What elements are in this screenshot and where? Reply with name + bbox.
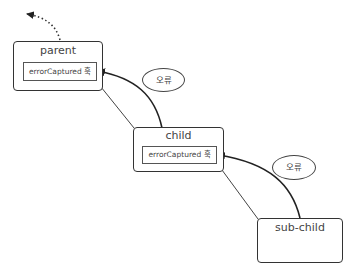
parent-error-captured-hook: errorCaptured 훅 (23, 62, 97, 81)
error-bubble-upper: 오류 (142, 68, 185, 92)
child-label: child (134, 129, 223, 142)
sub-child-node: sub-child (257, 218, 343, 263)
child-error-captured-hook: errorCaptured 훅 (142, 146, 217, 164)
parent-child-link (101, 87, 134, 128)
parent-node: parent errorCaptured 훅 (13, 41, 103, 91)
sub-child-label: sub-child (258, 221, 342, 234)
dotted-escalation-arrow (27, 14, 60, 40)
child-node: child errorCaptured 훅 (133, 127, 224, 172)
child-subchild-link (222, 170, 258, 219)
error-bubble-lower: 오류 (272, 155, 316, 180)
parent-label: parent (14, 44, 102, 57)
